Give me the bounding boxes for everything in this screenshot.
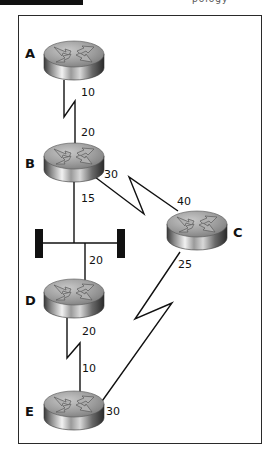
- router-c-label: C: [233, 225, 243, 240]
- link-c-e: [100, 252, 180, 404]
- ethernet-terminator-left: [35, 229, 43, 258]
- router-d[interactable]: [44, 279, 104, 318]
- cost-a-b-at-a: 10: [81, 86, 95, 99]
- router-c[interactable]: [167, 211, 227, 250]
- router-d-label: D: [25, 293, 36, 308]
- router-a-label: A: [25, 46, 35, 61]
- router-e[interactable]: [44, 391, 104, 430]
- link-a-b: [64, 80, 75, 148]
- network-topology-diagram: A B C D E 10 20 30 15 40 20 25 20 10 30: [0, 0, 278, 453]
- cost-a-b-at-b: 20: [81, 126, 95, 139]
- cost-b-c-at-b: 30: [104, 168, 118, 181]
- router-b[interactable]: [44, 143, 104, 182]
- link-d-e: [67, 318, 80, 394]
- cost-b-ethernet: 15: [81, 192, 95, 205]
- link-b-c: [95, 177, 178, 214]
- cost-d-e-at-d: 20: [82, 325, 96, 338]
- router-e-label: E: [25, 404, 34, 419]
- router-b-label: B: [25, 156, 35, 171]
- cost-b-c-at-c: 40: [177, 195, 191, 208]
- router-a[interactable]: [44, 41, 104, 80]
- cost-c-e-at-e: 30: [106, 405, 120, 418]
- cost-d-ethernet: 20: [89, 254, 103, 267]
- cost-d-e-at-e: 10: [82, 362, 96, 375]
- cost-c-e-at-c: 25: [178, 258, 192, 271]
- ethernet-terminator-right: [117, 229, 125, 258]
